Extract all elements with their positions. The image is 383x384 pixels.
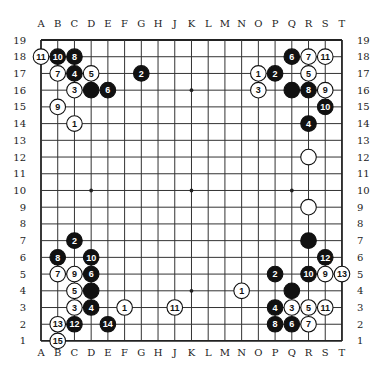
column-label: B — [54, 18, 61, 29]
move-number: 11 — [36, 52, 46, 62]
row-label: 19 — [13, 35, 26, 46]
black-stone: 6 — [284, 49, 300, 65]
column-label: E — [104, 18, 111, 29]
move-number: 5 — [306, 303, 311, 313]
row-label: 15 — [13, 101, 26, 112]
black-stone: 4 — [67, 66, 83, 82]
move-number: 2 — [72, 236, 77, 246]
row-label: 10 — [13, 185, 26, 196]
move-number: 3 — [72, 303, 77, 313]
row-label: 15 — [357, 101, 370, 112]
white-stone: 1 — [67, 116, 83, 132]
row-label: 14 — [13, 118, 26, 129]
column-label: O — [254, 18, 262, 29]
move-number: 2 — [273, 69, 278, 79]
move-number: 1 — [256, 69, 261, 79]
move-number: 5 — [89, 69, 94, 79]
move-number: 1 — [72, 119, 77, 129]
white-stone: 1 — [251, 66, 267, 82]
white-stone: 3 — [284, 300, 300, 316]
move-number: 10 — [86, 253, 96, 263]
white-stone: 11 — [33, 49, 49, 65]
black-stone: 8 — [267, 316, 283, 332]
white-stone: 7 — [50, 266, 66, 282]
white-stone: 5 — [301, 66, 317, 82]
black-stone — [301, 233, 317, 249]
column-label: T — [339, 347, 346, 358]
black-stone-circle — [301, 233, 317, 249]
black-stone: 8 — [301, 82, 317, 98]
row-label: 4 — [20, 285, 26, 296]
move-number: 4 — [306, 119, 311, 129]
row-label: 12 — [357, 152, 370, 163]
move-number: 7 — [306, 52, 311, 62]
move-number: 7 — [55, 269, 60, 279]
column-label: M — [220, 347, 230, 358]
column-label: J — [172, 347, 177, 358]
black-stone: 10 — [50, 49, 66, 65]
column-label: M — [220, 18, 230, 29]
black-stone: 2 — [134, 66, 150, 82]
white-stone: 9 — [317, 266, 333, 282]
row-label: 2 — [357, 319, 363, 330]
row-label: 10 — [357, 185, 370, 196]
column-label: G — [137, 347, 145, 358]
column-label: H — [154, 347, 163, 358]
column-label: N — [237, 18, 246, 29]
move-number: 9 — [55, 102, 60, 112]
black-stone — [83, 82, 99, 98]
row-label: 7 — [357, 235, 363, 246]
row-label: 1 — [20, 335, 26, 346]
column-label: A — [36, 18, 45, 29]
white-stone: 11 — [167, 300, 183, 316]
move-number: 10 — [304, 269, 314, 279]
black-stone: 6 — [284, 316, 300, 332]
white-stone: 9 — [67, 266, 83, 282]
row-label: 3 — [357, 302, 363, 313]
row-label: 7 — [20, 235, 26, 246]
black-stone: 4 — [83, 300, 99, 316]
white-stone: 5 — [301, 300, 317, 316]
move-number: 8 — [55, 253, 60, 263]
move-number: 6 — [289, 319, 294, 329]
row-label: 6 — [20, 252, 26, 263]
move-number: 3 — [256, 85, 261, 95]
move-number: 6 — [105, 85, 110, 95]
black-stone — [284, 283, 300, 299]
column-label: D — [87, 18, 95, 29]
column-label: G — [137, 18, 145, 29]
white-stone: 1 — [117, 300, 133, 316]
move-number: 11 — [170, 303, 180, 313]
column-label: K — [188, 347, 196, 358]
column-label: J — [172, 18, 177, 29]
column-label: S — [322, 18, 329, 29]
column-label: T — [339, 18, 346, 29]
row-label: 11 — [13, 168, 26, 179]
white-stone: 5 — [67, 283, 83, 299]
column-label: Q — [288, 347, 296, 358]
black-stone: 4 — [301, 116, 317, 132]
column-label: R — [305, 347, 313, 358]
column-label: E — [104, 347, 111, 358]
white-stone-circle — [301, 199, 317, 215]
star-point — [190, 289, 194, 293]
star-point — [190, 88, 194, 92]
move-number: 12 — [320, 253, 330, 263]
column-label: N — [237, 347, 246, 358]
move-number: 1 — [239, 286, 244, 296]
move-number: 2 — [273, 269, 278, 279]
column-label: A — [36, 347, 45, 358]
row-label: 16 — [13, 85, 26, 96]
move-number: 4 — [72, 69, 77, 79]
white-stone: 13 — [334, 266, 350, 282]
column-label: S — [322, 347, 329, 358]
column-label: P — [272, 18, 279, 29]
black-stone: 4 — [267, 300, 283, 316]
white-stone — [301, 149, 317, 165]
move-number: 10 — [320, 102, 330, 112]
row-label: 5 — [357, 269, 363, 280]
black-stone: 10 — [83, 250, 99, 266]
column-label: C — [71, 347, 79, 358]
row-label: 12 — [13, 152, 26, 163]
move-number: 9 — [323, 85, 328, 95]
